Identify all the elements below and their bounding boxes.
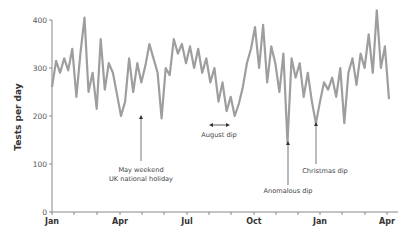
y-tick-0: 0 [42, 208, 47, 217]
x-tick-apr: Apr [112, 217, 128, 226]
y-tick-400: 400 [33, 16, 48, 25]
annotation-may-line1: May weekend [118, 166, 163, 174]
annotation-anomalous-label: Anomalous dip [264, 187, 313, 195]
y-tick-300: 300 [33, 64, 48, 73]
annotation-christmas-label: Christmas dip [302, 167, 348, 175]
x-tick-jul: Jul [180, 217, 193, 226]
annotation-may-line2: UK national holiday [109, 175, 173, 183]
y-axis-label: Tests per day [13, 83, 23, 151]
y-tick-200: 200 [33, 112, 48, 121]
annotation-august-label: August dip [201, 131, 236, 139]
x-tick-jan: Jan [44, 217, 59, 226]
tests-per-day-chart: Tests per day 0 100 200 300 400 Jan Apr [0, 0, 414, 237]
annotation-may-holiday: May weekend UK national holiday [109, 117, 173, 183]
annotation-christmas-dip: Christmas dip [302, 124, 348, 175]
y-tick-100: 100 [33, 160, 48, 169]
annotation-august-dip: August dip [201, 125, 236, 139]
x-tick-jan-2: Jan [312, 217, 327, 226]
y-ticks: 0 100 200 300 400 [33, 16, 52, 217]
x-tick-apr-2: Apr [379, 217, 395, 226]
tests-per-day-line [52, 10, 389, 142]
x-tick-oct: Oct [246, 217, 262, 226]
